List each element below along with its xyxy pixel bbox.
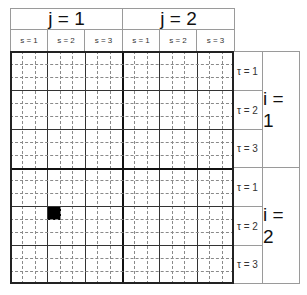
j-header-2: j = 2: [122, 8, 235, 30]
tau-label: τ = 2: [233, 90, 263, 130]
s-header: s = 2: [159, 29, 197, 52]
j-header-1: j = 1: [10, 8, 123, 30]
grid-frame: [10, 51, 234, 284]
tau-label: τ = 1: [233, 167, 263, 207]
s-header: s = 3: [84, 29, 123, 52]
s-header: s = 1: [122, 29, 160, 52]
s-header: s = 2: [47, 29, 85, 52]
tau-label: τ = 3: [233, 129, 263, 168]
tau-label: τ = 2: [233, 206, 263, 246]
s-header: s = 3: [196, 29, 235, 52]
i-label-1: i = 1: [262, 51, 300, 168]
s-header: s = 1: [10, 29, 48, 52]
tau-label: τ = 1: [233, 51, 263, 91]
allocation-grid: [10, 51, 234, 284]
tau-label: τ = 3: [233, 245, 263, 284]
i-label-2: i = 2: [262, 167, 300, 284]
